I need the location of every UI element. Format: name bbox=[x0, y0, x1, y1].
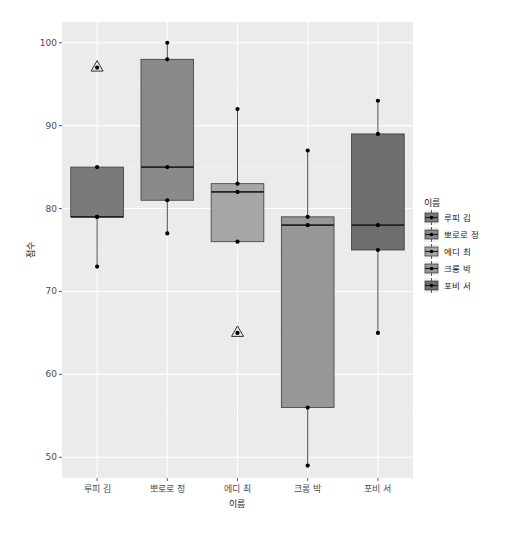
data-point bbox=[235, 190, 239, 194]
legend-label: 에디 최 bbox=[444, 247, 471, 257]
y-axis: 5060708090100 bbox=[40, 38, 62, 463]
data-point bbox=[376, 331, 380, 335]
y-axis-title: 점수 bbox=[25, 242, 36, 258]
data-point bbox=[95, 215, 99, 219]
legend-item: 에디 최 bbox=[424, 244, 471, 259]
data-point bbox=[165, 165, 169, 169]
legend-label: 포비 서 bbox=[444, 281, 471, 291]
x-axis-title: 이름 bbox=[229, 499, 245, 509]
data-point bbox=[165, 41, 169, 45]
x-tick-label: 루피 김 bbox=[84, 483, 111, 494]
box-body bbox=[281, 217, 334, 408]
data-point bbox=[95, 165, 99, 169]
data-point bbox=[306, 463, 310, 467]
legend-item: 포비 서 bbox=[424, 278, 471, 293]
data-point bbox=[235, 240, 239, 244]
data-point bbox=[376, 99, 380, 103]
box-body bbox=[71, 167, 124, 217]
data-point bbox=[165, 231, 169, 235]
data-point bbox=[165, 57, 169, 61]
legend-title: 이름 bbox=[424, 198, 440, 208]
x-axis: 루피 김뽀로로 정에디 최크롱 박포비 서 bbox=[84, 478, 392, 494]
data-point bbox=[95, 66, 99, 70]
legend-label: 크롱 박 bbox=[444, 264, 471, 274]
data-point bbox=[95, 264, 99, 268]
legend-item: 크롱 박 bbox=[424, 261, 471, 276]
legend-key-point bbox=[430, 250, 434, 254]
y-tick-label: 100 bbox=[40, 38, 57, 48]
x-tick-label: 뽀로로 정 bbox=[150, 484, 185, 494]
x-tick-label: 포비 서 bbox=[364, 484, 391, 494]
box-body bbox=[141, 59, 194, 200]
data-point bbox=[306, 148, 310, 152]
data-point bbox=[306, 223, 310, 227]
data-point bbox=[165, 198, 169, 202]
legend-item: 뽀로로 정 bbox=[424, 227, 479, 242]
legend-item: 루피 김 bbox=[424, 210, 471, 225]
legend-label: 루피 김 bbox=[444, 213, 471, 223]
legend-key-point bbox=[430, 233, 434, 237]
data-point bbox=[376, 248, 380, 252]
data-point bbox=[306, 405, 310, 409]
x-tick-label: 크롱 박 bbox=[294, 484, 321, 494]
legend-label: 뽀로로 정 bbox=[444, 230, 479, 240]
y-tick-label: 50 bbox=[46, 452, 58, 462]
data-point bbox=[235, 331, 239, 335]
y-tick-label: 70 bbox=[46, 286, 58, 296]
legend: 이름 루피 김뽀로로 정에디 최크롱 박포비 서 bbox=[424, 198, 479, 293]
data-point bbox=[376, 223, 380, 227]
boxplot-chart: 5060708090100 루피 김뽀로로 정에디 최크롱 박포비 서 이름 점… bbox=[0, 0, 516, 534]
y-tick-label: 90 bbox=[46, 121, 58, 131]
legend-key-point bbox=[430, 267, 434, 271]
box-body bbox=[352, 134, 405, 250]
y-tick-label: 60 bbox=[46, 369, 58, 379]
data-point bbox=[376, 132, 380, 136]
data-point bbox=[306, 215, 310, 219]
data-point bbox=[235, 182, 239, 186]
data-point bbox=[235, 107, 239, 111]
legend-key-point bbox=[430, 216, 434, 220]
y-tick-label: 80 bbox=[46, 204, 58, 214]
x-tick-label: 에디 최 bbox=[224, 484, 251, 494]
legend-key-point bbox=[430, 284, 434, 288]
